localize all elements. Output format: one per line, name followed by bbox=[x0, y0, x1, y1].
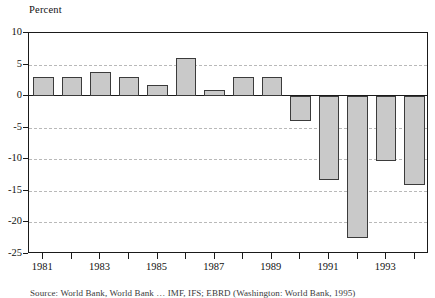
x-axis-tick bbox=[299, 253, 300, 259]
x-axis-tick bbox=[357, 253, 358, 259]
y-axis-label: 5 bbox=[0, 59, 22, 69]
bar bbox=[90, 72, 111, 96]
bar bbox=[404, 96, 425, 184]
bar bbox=[233, 77, 254, 96]
bar bbox=[204, 90, 225, 96]
x-axis-tick bbox=[271, 253, 272, 259]
y-axis-tick bbox=[23, 32, 28, 33]
x-axis-tick bbox=[242, 253, 243, 259]
y-axis-tick bbox=[23, 190, 28, 191]
y-axis-tick bbox=[23, 158, 28, 159]
bar bbox=[176, 58, 197, 96]
plot-area bbox=[28, 32, 428, 253]
x-axis-label: 1987 bbox=[192, 261, 236, 273]
y-axis-tick bbox=[23, 127, 28, 128]
y-axis-label: -15 bbox=[0, 185, 22, 195]
x-axis-label: 1981 bbox=[20, 261, 64, 273]
x-axis-tick bbox=[214, 253, 215, 259]
x-axis-label: 1991 bbox=[306, 261, 350, 273]
x-axis-tick bbox=[185, 253, 186, 259]
y-axis-label: -25 bbox=[0, 248, 22, 258]
x-axis-tick bbox=[414, 253, 415, 259]
bar bbox=[62, 77, 83, 96]
bar bbox=[376, 96, 397, 160]
x-axis-tick bbox=[128, 253, 129, 259]
bar-series bbox=[29, 33, 427, 252]
bar bbox=[262, 77, 283, 96]
bar bbox=[290, 96, 311, 121]
x-axis-tick bbox=[42, 253, 43, 259]
y-axis-tick bbox=[23, 95, 28, 96]
y-axis-label: 10 bbox=[0, 27, 22, 37]
y-axis-tick bbox=[23, 221, 28, 222]
bar bbox=[119, 77, 140, 96]
y-axis-tick bbox=[23, 64, 28, 65]
bar bbox=[319, 96, 340, 180]
source-note: Source: World Bank, World Bank … IMF, IF… bbox=[30, 288, 355, 298]
x-axis-label: 1983 bbox=[77, 261, 121, 273]
x-axis-tick bbox=[157, 253, 158, 259]
y-axis-label: 0 bbox=[0, 90, 22, 100]
x-axis-label: 1985 bbox=[135, 261, 179, 273]
x-axis-tick bbox=[385, 253, 386, 259]
x-axis-label: 1989 bbox=[249, 261, 293, 273]
x-axis-tick bbox=[328, 253, 329, 259]
y-axis-tick bbox=[23, 253, 28, 254]
bar bbox=[347, 96, 368, 238]
y-axis-title: Percent bbox=[29, 4, 62, 15]
bar bbox=[33, 77, 54, 96]
y-axis-label: -10 bbox=[0, 153, 22, 163]
bar bbox=[147, 85, 168, 96]
x-axis-tick bbox=[99, 253, 100, 259]
x-axis-tick bbox=[71, 253, 72, 259]
y-axis-label: -5 bbox=[0, 122, 22, 132]
x-axis-label: 1993 bbox=[363, 261, 407, 273]
y-axis-label: -20 bbox=[0, 216, 22, 226]
